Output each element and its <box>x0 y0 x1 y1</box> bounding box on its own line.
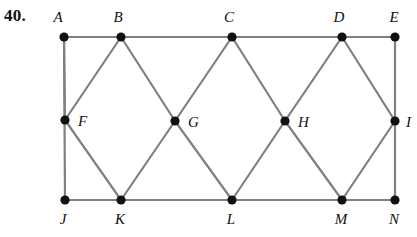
vertex-point-k <box>116 195 125 204</box>
vertex-point-a <box>59 32 68 41</box>
vertex-layer <box>59 32 399 204</box>
vertex-label-g: G <box>188 114 199 130</box>
segment-g-l <box>175 121 232 200</box>
segment-f-k <box>65 120 121 200</box>
vertex-label-i: I <box>405 114 412 130</box>
segment-i-m <box>342 121 395 200</box>
segment-c-h <box>232 37 285 121</box>
vertex-label-l: L <box>226 211 235 227</box>
vertex-point-n <box>390 195 399 204</box>
figure-container: 40. ABCDEFGHIJKLMN <box>0 0 417 237</box>
vertex-point-g <box>170 116 179 125</box>
vertex-point-l <box>227 195 236 204</box>
vertex-point-f <box>60 115 69 124</box>
segment-c-g <box>175 37 232 121</box>
vertex-label-layer: ABCDEFGHIJKLMN <box>52 9 412 227</box>
vertex-point-e <box>390 32 399 41</box>
segment-d-h <box>285 37 342 121</box>
segment-h-m <box>285 121 342 200</box>
vertex-label-h: H <box>297 114 310 130</box>
vertex-point-i <box>390 116 399 125</box>
segment-d-i <box>342 37 395 121</box>
vertex-label-d: D <box>333 9 345 25</box>
vertex-point-b <box>116 32 125 41</box>
segment-a-f <box>64 37 65 120</box>
vertex-point-h <box>280 116 289 125</box>
segment-g-k <box>121 121 175 200</box>
vertex-label-c: C <box>224 9 235 25</box>
segment-b-g <box>121 37 175 121</box>
vertex-label-k: K <box>114 211 126 227</box>
vertex-label-f: F <box>77 113 88 129</box>
vertex-label-m: M <box>334 211 349 227</box>
vertex-point-j <box>60 195 69 204</box>
geometry-diagram: ABCDEFGHIJKLMN <box>0 0 417 237</box>
vertex-label-b: B <box>113 9 122 25</box>
segment-h-l <box>232 121 285 200</box>
vertex-label-e: E <box>388 9 398 25</box>
segment-b-f <box>65 37 121 120</box>
vertex-point-m <box>337 195 346 204</box>
vertex-point-d <box>337 32 346 41</box>
vertex-point-c <box>227 32 236 41</box>
vertex-label-j: J <box>60 211 68 227</box>
vertex-label-a: A <box>52 9 63 25</box>
edge-layer <box>64 37 395 200</box>
vertex-label-n: N <box>388 211 400 227</box>
